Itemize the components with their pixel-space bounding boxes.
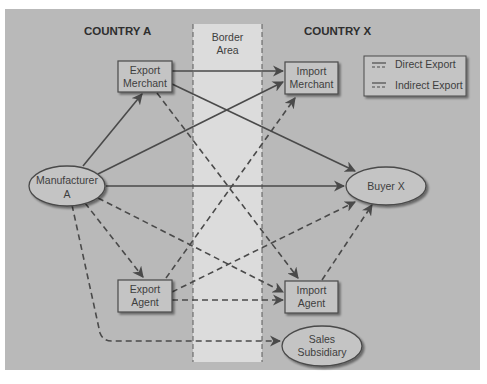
sales-subsidiary-label-line1: Sales [309, 333, 335, 345]
manufacturer-label-line2: A [63, 188, 70, 200]
country-x-title: COUNTRY X [304, 25, 371, 37]
sales-subsidiary-label-line2: Subsidiary [297, 346, 347, 358]
node-export-agent: Export Agent [118, 280, 172, 312]
buyer-label: Buyer X [367, 180, 404, 192]
import-merchant-label-line2: Merchant [290, 78, 334, 90]
node-import-merchant: Import Merchant [285, 62, 338, 94]
node-manufacturer: Manufacturer A [29, 166, 105, 206]
import-merchant-label-line1: Import [297, 65, 327, 77]
manufacturer-label-line1: Manufacturer [36, 174, 98, 186]
legend-indirect-label: Indirect Export [395, 79, 463, 91]
legend-direct-label: Direct Export [395, 58, 456, 70]
export-agent-label-line1: Export [130, 283, 160, 295]
node-buyer: Buyer X [346, 167, 426, 205]
country-a-title: COUNTRY A [84, 25, 151, 37]
node-export-merchant: Export Merchant [118, 61, 172, 92]
export-merchant-label-line2: Merchant [123, 77, 167, 89]
node-sales-subsidiary: Sales Subsidiary [282, 326, 362, 366]
import-agent-label-line1: Import [297, 284, 327, 296]
export-channels-diagram: Border Area COUNTRY A COUNTRY X Export M… [0, 0, 487, 384]
legend: Direct Export Indirect Export [364, 56, 466, 96]
export-merchant-label-line1: Export [130, 64, 160, 76]
export-agent-label-line2: Agent [131, 296, 159, 308]
node-import-agent: Import Agent [285, 281, 338, 313]
border-area-label-line2: Area [216, 44, 238, 56]
import-agent-label-line2: Agent [298, 297, 326, 309]
border-area-label-line1: Border [212, 31, 244, 43]
